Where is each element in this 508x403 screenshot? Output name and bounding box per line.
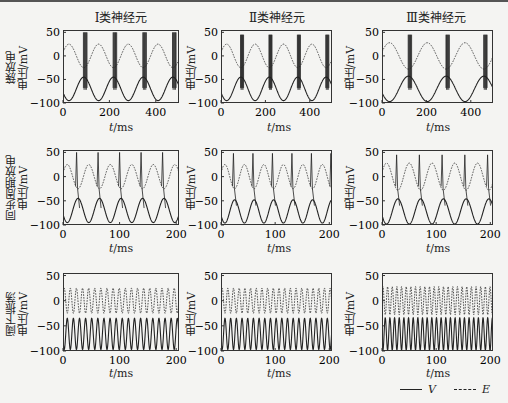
x-tick-label: 0 bbox=[379, 354, 386, 367]
series-v-spikes bbox=[241, 35, 329, 90]
y-tick-label: 50 bbox=[204, 26, 218, 39]
series-e-line bbox=[63, 44, 179, 68]
y-tick-label: 0 bbox=[53, 171, 60, 184]
plot-r3c3: 500−50−1000100200 bbox=[382, 273, 493, 351]
y-tick-label: 0 bbox=[53, 295, 60, 308]
x-tick-label: 400 bbox=[299, 106, 320, 119]
y-tick-label: 50 bbox=[204, 146, 218, 159]
series-e-line bbox=[382, 163, 493, 190]
plot-frame bbox=[64, 151, 179, 225]
x-tick-label: 400 bbox=[460, 106, 481, 119]
y-tick-label: −100 bbox=[349, 219, 379, 232]
xlabel-r2c1: t/ms bbox=[63, 242, 179, 255]
x-tick-label: 200 bbox=[319, 228, 340, 241]
row-label-sync: 同步周期放电电压/mV bbox=[6, 150, 30, 226]
series-e-line bbox=[221, 44, 332, 68]
xlabel-r1c1: t/ms bbox=[63, 121, 179, 134]
ylabel-r3c3: 电压/mV bbox=[345, 276, 357, 352]
x-tick-label: 200 bbox=[416, 106, 437, 119]
series-v-line bbox=[63, 198, 179, 222]
plot-r3c2: 500−50−1000100200 bbox=[221, 273, 332, 351]
y-tick-label: −100 bbox=[30, 219, 60, 232]
series-v-spikes bbox=[76, 152, 166, 208]
series-e-line bbox=[221, 288, 332, 313]
column-title-type3: Ⅲ类神经元 bbox=[378, 8, 494, 25]
ylabel-r2c3: 电压/mV bbox=[345, 150, 357, 226]
series-e-line bbox=[382, 43, 493, 69]
x-tick-label: 0 bbox=[60, 354, 67, 367]
xlabel-r2c3: t/ms bbox=[380, 242, 496, 255]
y-tick-label: 0 bbox=[211, 171, 218, 184]
y-tick-label: 0 bbox=[211, 295, 218, 308]
xlabel-r1c2: t/ms bbox=[221, 121, 337, 134]
series-v-line bbox=[63, 77, 179, 101]
y-tick-label: 50 bbox=[46, 146, 60, 159]
series-v-spikes bbox=[408, 35, 487, 90]
x-tick-label: 0 bbox=[60, 228, 67, 241]
series-v-line bbox=[63, 318, 179, 349]
y-tick-label: −100 bbox=[349, 97, 379, 110]
plot-frame bbox=[222, 31, 332, 103]
x-tick-label: 100 bbox=[426, 354, 447, 367]
ylabel-r1c3: 电压/mV bbox=[345, 34, 357, 102]
y-tick-label: 50 bbox=[204, 270, 218, 283]
x-tick-label: 0 bbox=[218, 228, 225, 241]
column-title-type2: Ⅱ类神经元 bbox=[219, 8, 335, 25]
legend-solid-line-icon bbox=[400, 389, 422, 390]
series-v-line bbox=[221, 200, 332, 223]
row-label-subthreshold: 阈下振荡电压/mV bbox=[6, 276, 30, 352]
series-v-line bbox=[221, 318, 332, 349]
x-tick-label: 0 bbox=[379, 228, 386, 241]
x-tick-label: 200 bbox=[319, 354, 340, 367]
plot-r1c1: 500−50−1000200400 bbox=[63, 30, 179, 103]
x-tick-label: 200 bbox=[480, 228, 501, 241]
y-tick-label: 50 bbox=[365, 146, 379, 159]
plot-r2c1: 500−50−1000100200 bbox=[63, 150, 179, 225]
y-tick-label: −50 bbox=[37, 195, 60, 208]
series-e-line bbox=[63, 288, 179, 313]
x-tick-label: 200 bbox=[99, 106, 120, 119]
y-tick-label: 0 bbox=[53, 50, 60, 63]
y-tick-label: −100 bbox=[30, 97, 60, 110]
plot-r3c1: 500−50−1000100200 bbox=[63, 273, 179, 351]
plot-r1c3: 500−50−1000200400 bbox=[382, 30, 493, 103]
series-v-line bbox=[382, 318, 493, 350]
xlabel-r2c2: t/ms bbox=[221, 242, 337, 255]
legend-label-v: V bbox=[428, 383, 436, 396]
top-border bbox=[0, 0, 508, 2]
xlabel-r3c1: t/ms bbox=[63, 367, 179, 380]
xlabel-r1c3: t/ms bbox=[380, 121, 496, 134]
y-tick-label: −100 bbox=[30, 345, 60, 358]
y-tick-label: −50 bbox=[37, 73, 60, 86]
plot-frame bbox=[222, 151, 332, 225]
xlabel-r3c2: t/ms bbox=[221, 367, 337, 380]
x-tick-label: 100 bbox=[109, 228, 130, 241]
y-tick-label: −50 bbox=[356, 73, 379, 86]
ylabel-r2c2: 电压/mV bbox=[186, 150, 198, 226]
y-tick-label: 0 bbox=[372, 295, 379, 308]
y-tick-label: −100 bbox=[188, 345, 218, 358]
y-tick-label: 0 bbox=[372, 50, 379, 63]
plot-r2c2: 500−50−1000100200 bbox=[221, 150, 332, 225]
y-tick-label: −100 bbox=[188, 97, 218, 110]
series-e-line bbox=[221, 165, 332, 189]
legend: V E bbox=[400, 383, 502, 396]
plot-frame bbox=[383, 31, 493, 103]
ylabel-r1c2: 电压/mV bbox=[186, 34, 198, 102]
x-tick-label: 100 bbox=[265, 354, 286, 367]
plot-frame bbox=[64, 31, 179, 103]
plot-r1c2: 500−50−1000200400 bbox=[221, 30, 332, 103]
x-tick-label: 100 bbox=[426, 228, 447, 241]
series-v-line bbox=[382, 199, 493, 224]
y-tick-label: −50 bbox=[37, 320, 60, 333]
y-tick-label: 50 bbox=[46, 26, 60, 39]
legend-label-e: E bbox=[482, 383, 490, 396]
legend-dashed-line-icon bbox=[454, 389, 476, 390]
y-tick-label: −100 bbox=[188, 219, 218, 232]
x-tick-label: 200 bbox=[255, 106, 276, 119]
x-tick-label: 400 bbox=[145, 106, 166, 119]
y-tick-label: 0 bbox=[372, 171, 379, 184]
y-tick-label: −50 bbox=[356, 195, 379, 208]
series-v-line bbox=[382, 76, 493, 101]
y-tick-label: −50 bbox=[356, 320, 379, 333]
